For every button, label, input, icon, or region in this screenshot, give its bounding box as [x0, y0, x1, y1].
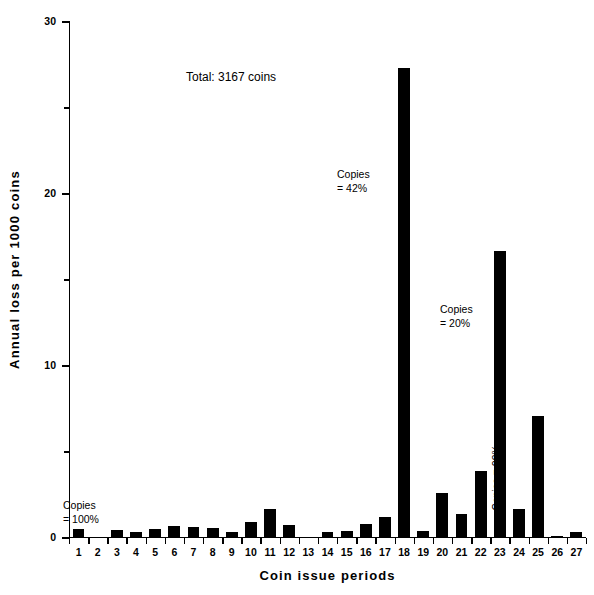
x-tick-1	[88, 538, 89, 544]
bar-9	[226, 532, 238, 538]
x-tick-9	[241, 538, 242, 544]
x-tick-label-18: 18	[394, 546, 414, 558]
total-coins-annotation: Total: 3167 coins	[186, 70, 276, 84]
bar-10	[245, 522, 257, 538]
x-tick-10	[260, 538, 261, 544]
y-axis-title-text: Annual loss per 1000 coins	[7, 170, 22, 369]
x-tick-label-8: 8	[203, 546, 223, 558]
x-tick-label-17: 17	[375, 546, 395, 558]
y-tick-label-10: 10	[22, 359, 56, 371]
copies-42-annotation: Copies = 42%	[337, 167, 370, 195]
x-tick-label-26: 26	[547, 546, 567, 558]
x-tick-label-25: 25	[528, 546, 548, 558]
bar-21	[456, 514, 468, 538]
y-tick-label-0: 0	[22, 531, 56, 543]
x-tick-label-24: 24	[509, 546, 529, 558]
x-tick-18	[414, 538, 415, 544]
x-tick-16	[375, 538, 376, 544]
bar-5	[149, 529, 161, 538]
x-tick-6	[184, 538, 185, 544]
bar-13	[302, 537, 314, 538]
bar-12	[283, 525, 295, 538]
bar-18	[398, 68, 410, 538]
bar-16	[360, 524, 372, 538]
bar-14	[322, 532, 334, 538]
bar-8	[207, 528, 219, 538]
copies-42-line2: = 42%	[337, 181, 370, 195]
x-tick-label-9: 9	[222, 546, 242, 558]
x-tick-label-3: 3	[107, 546, 127, 558]
bar-25	[532, 416, 544, 538]
x-tick-24	[529, 538, 530, 544]
bar-17	[379, 517, 391, 538]
plot-area	[69, 22, 586, 538]
x-tick-17	[395, 538, 396, 544]
x-tick-23	[509, 538, 510, 544]
bar-11	[264, 509, 276, 538]
x-tick-3	[126, 538, 127, 544]
bar-4	[130, 532, 142, 538]
copies-29-annotation: Copies = 29%	[489, 432, 503, 524]
x-tick-label-11: 11	[260, 546, 280, 558]
x-tick-21	[471, 538, 472, 544]
x-tick-20	[452, 538, 453, 544]
bar-1	[73, 529, 85, 538]
x-tick-label-2: 2	[88, 546, 108, 558]
x-tick-origin	[69, 538, 70, 544]
copies-100-line2: = 100%	[63, 512, 99, 526]
x-tick-11	[280, 538, 281, 544]
copies-100-annotation: Copies = 100%	[63, 498, 99, 526]
bar-3	[111, 530, 123, 538]
x-tick-label-15: 15	[337, 546, 357, 558]
x-tick-27	[586, 538, 587, 544]
x-tick-14	[337, 538, 338, 544]
bar-6	[168, 526, 180, 538]
x-tick-13	[318, 538, 319, 544]
x-tick-label-7: 7	[183, 546, 203, 558]
y-tick-label-20: 20	[22, 187, 56, 199]
x-tick-8	[222, 538, 223, 544]
x-axis-title: Coin issue periods	[69, 568, 586, 583]
x-tick-label-5: 5	[145, 546, 165, 558]
bar-15	[341, 531, 353, 538]
x-tick-label-14: 14	[318, 546, 338, 558]
bar-24	[513, 509, 525, 538]
bar-27	[570, 532, 582, 538]
bar-26	[551, 536, 563, 538]
copies-20-line1: Copies	[440, 302, 473, 316]
x-tick-label-21: 21	[452, 546, 472, 558]
bar-20	[436, 493, 448, 538]
x-tick-label-20: 20	[432, 546, 452, 558]
x-tick-2	[107, 538, 108, 544]
y-tick-label-30: 30	[22, 15, 56, 27]
x-tick-label-12: 12	[279, 546, 299, 558]
x-tick-4	[146, 538, 147, 544]
x-tick-22	[490, 538, 491, 544]
x-tick-15	[356, 538, 357, 544]
x-tick-label-6: 6	[164, 546, 184, 558]
bar-19	[417, 531, 429, 538]
x-tick-label-13: 13	[298, 546, 318, 558]
copies-20-annotation: Copies = 20%	[440, 302, 473, 330]
x-tick-7	[203, 538, 204, 544]
x-tick-12	[299, 538, 300, 544]
bar-chart-figure: Annual loss per 1000 coins 0102030 12345…	[0, 0, 594, 595]
copies-20-line2: = 20%	[440, 316, 473, 330]
x-tick-label-1: 1	[69, 546, 89, 558]
x-tick-label-16: 16	[356, 546, 376, 558]
x-tick-5	[165, 538, 166, 544]
bar-22	[475, 471, 487, 538]
x-tick-label-4: 4	[126, 546, 146, 558]
x-tick-19	[433, 538, 434, 544]
bar-7	[188, 527, 200, 538]
copies-42-line1: Copies	[337, 167, 370, 181]
x-tick-label-22: 22	[471, 546, 491, 558]
x-tick-label-27: 27	[566, 546, 586, 558]
copies-29-text: Copies = 29%	[490, 445, 502, 511]
x-tick-25	[548, 538, 549, 544]
x-tick-label-23: 23	[490, 546, 510, 558]
x-tick-26	[567, 538, 568, 544]
y-axis-title: Annual loss per 1000 coins	[2, 0, 26, 538]
x-tick-label-10: 10	[241, 546, 261, 558]
copies-100-line1: Copies	[63, 498, 99, 512]
